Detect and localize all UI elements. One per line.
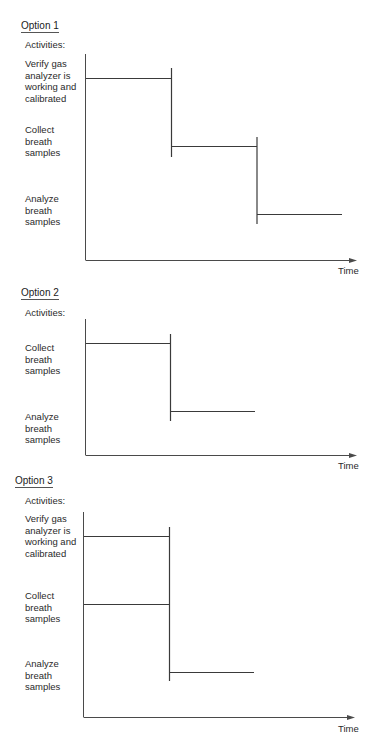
option-1-arrow-icon xyxy=(349,258,357,263)
option-2-chart xyxy=(86,319,358,458)
option-3-chart xyxy=(84,512,356,720)
option-3-arrow-icon xyxy=(347,715,355,720)
option-2-arrow-icon xyxy=(349,453,357,458)
option-1-chart xyxy=(86,54,358,263)
gantt-diagrams xyxy=(0,0,374,740)
